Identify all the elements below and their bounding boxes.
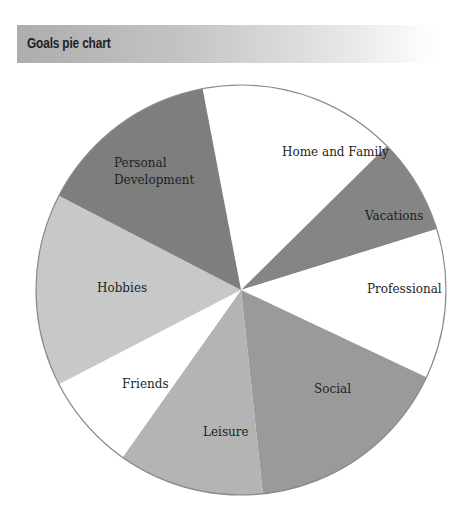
- slice-label: Home and Family: [282, 145, 389, 159]
- slice-label: Social: [314, 382, 351, 396]
- slice-label: Leisure: [203, 425, 249, 439]
- slice-label: Vacations: [364, 209, 423, 223]
- slice-label: Hobbies: [97, 281, 147, 295]
- goals-pie-chart: Home and FamilyVacationsProfessionalSoci…: [0, 0, 470, 519]
- slice-label: Professional: [367, 282, 442, 296]
- slice-label: Friends: [122, 377, 169, 391]
